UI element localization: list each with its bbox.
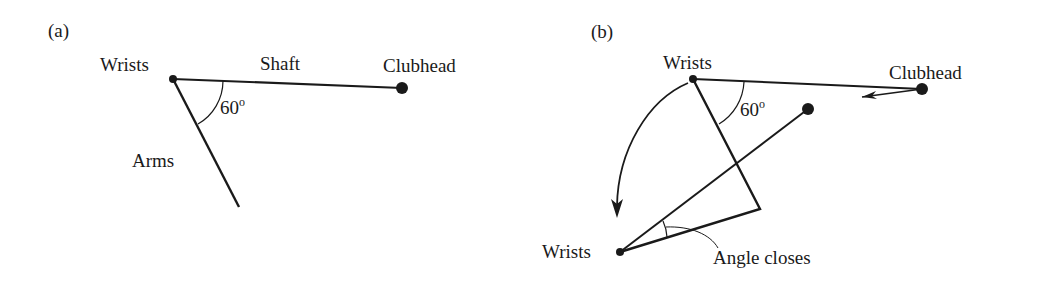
arms-label: Arms (132, 150, 174, 171)
wrist-point-bottom (616, 248, 624, 256)
shaft-label: Shaft (260, 53, 301, 74)
angle-closes-label: Angle closes (713, 247, 811, 268)
clubhead-label: Clubhead (889, 62, 962, 83)
angle-closes-leader (666, 227, 718, 248)
rotation-arrow (617, 83, 688, 206)
panel-a-label: (a) (48, 20, 69, 42)
clubhead-point-later (802, 103, 814, 115)
panel-a: (a) Wrists Shaft Clubhead 60o Arms (48, 20, 456, 207)
wrists-top-label: Wrists (663, 52, 712, 73)
shaft-line-later (620, 109, 808, 252)
wrist-point-top (689, 75, 697, 83)
shaft-line (173, 79, 402, 88)
clubhead-point (396, 82, 408, 94)
panel-b-label: (b) (591, 21, 613, 43)
panel-b: (b) Wrists Clubhead 60o (542, 21, 962, 268)
wrist-point (169, 75, 177, 83)
angle-label: 60o (740, 97, 765, 120)
clubhead-label: Clubhead (383, 55, 456, 76)
closing-angle-arc (663, 221, 667, 237)
shaft-line-initial (693, 79, 922, 89)
angle-label: 60o (220, 95, 245, 118)
golf-swing-diagram: (a) Wrists Shaft Clubhead 60o Arms (b) W… (0, 0, 1039, 282)
clubhead-point-initial (916, 83, 928, 95)
wrists-label: Wrists (100, 54, 149, 75)
wrists-bottom-label: Wrists (542, 241, 591, 262)
arms-line (620, 79, 760, 252)
